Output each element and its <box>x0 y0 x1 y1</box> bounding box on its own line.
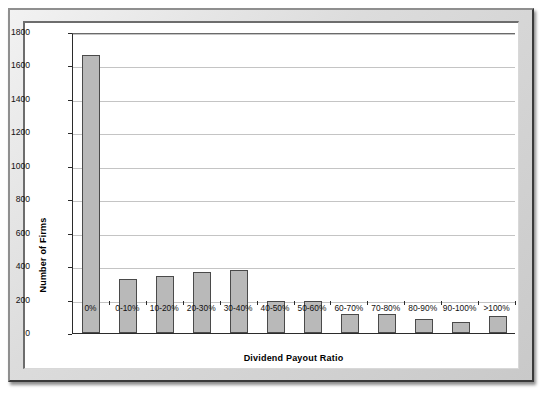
y-axis-tick-label: 1000 <box>0 161 30 171</box>
y-axis-tick-mark <box>68 200 72 201</box>
x-axis-tick-mark <box>515 301 516 305</box>
y-axis-tick-label: 800 <box>0 194 30 204</box>
x-axis-tick-mark <box>478 301 479 305</box>
x-axis-tick-mark <box>404 301 405 305</box>
gridline <box>73 67 515 68</box>
y-axis-tick-label: 1400 <box>0 94 30 104</box>
bar <box>230 270 248 333</box>
bar <box>452 322 470 333</box>
y-axis-tick-label: 0 <box>0 328 30 338</box>
gridline <box>73 268 515 269</box>
y-axis-tick-label: 400 <box>0 261 30 271</box>
y-axis-tick-mark <box>68 167 72 168</box>
bar <box>489 316 507 333</box>
gridline <box>73 134 515 135</box>
y-axis-tick-mark <box>68 66 72 67</box>
y-axis-tick-mark <box>68 234 72 235</box>
x-axis-tick-label: >100% <box>472 303 521 313</box>
bar <box>341 314 359 333</box>
gridline <box>73 101 515 102</box>
y-axis-tick-label: 1800 <box>0 27 30 37</box>
y-axis-tick-label: 1600 <box>0 60 30 70</box>
y-axis-tick-label: 1200 <box>0 127 30 137</box>
y-axis-tick-mark <box>68 334 72 335</box>
x-axis-tick-mark <box>367 301 368 305</box>
y-axis-tick-mark <box>68 33 72 34</box>
x-axis-tick-mark <box>220 301 221 305</box>
gridline <box>73 34 515 35</box>
y-axis-tick-label: 600 <box>0 228 30 238</box>
x-axis-title: Dividend Payout Ratio <box>72 353 515 363</box>
y-axis-tick-mark <box>68 267 72 268</box>
plot-area <box>72 33 515 334</box>
x-axis-tick-mark <box>72 301 73 305</box>
x-axis-tick-mark <box>146 301 147 305</box>
bar <box>378 314 396 333</box>
gridline <box>73 235 515 236</box>
bar <box>82 55 100 333</box>
x-axis-tick-mark <box>109 301 110 305</box>
y-axis-tick-mark <box>68 133 72 134</box>
x-axis-tick-mark <box>257 301 258 305</box>
x-axis-tick-mark <box>294 301 295 305</box>
y-axis-tick-label: 200 <box>0 295 30 305</box>
bar <box>415 319 433 333</box>
x-axis-tick-mark <box>441 301 442 305</box>
x-axis-tick-mark <box>183 301 184 305</box>
x-axis-tick-mark <box>330 301 331 305</box>
gridline <box>73 168 515 169</box>
bar-chart: Number of Firms Dividend Payout Ratio 02… <box>0 0 550 397</box>
gridline <box>73 201 515 202</box>
y-axis-tick-mark <box>68 100 72 101</box>
y-axis-title: Number of Firms <box>38 170 48 340</box>
